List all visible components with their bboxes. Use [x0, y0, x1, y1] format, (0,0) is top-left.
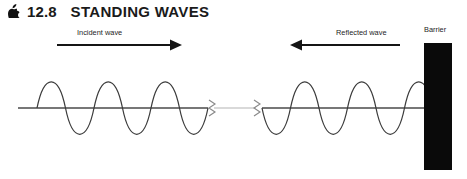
barrier-block	[424, 43, 452, 170]
incident-wave-group	[18, 82, 208, 135]
incident-direction-arrow	[57, 39, 182, 50]
wave-diagram-canvas	[0, 0, 467, 179]
axis-break-right-icon	[254, 100, 260, 116]
axis-break-region	[209, 100, 260, 116]
reflected-wave-group	[262, 82, 433, 135]
standing-waves-figure: 12.8 STANDING WAVES Incident wave Reflec…	[0, 0, 467, 179]
reflected-direction-arrow	[290, 39, 400, 50]
